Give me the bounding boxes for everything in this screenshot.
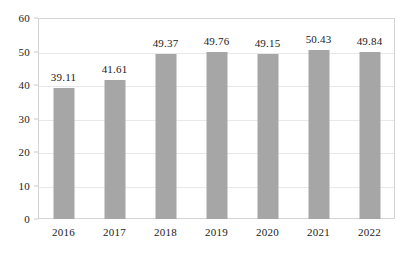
y-axis-tick-label: 10 <box>19 180 30 192</box>
bar-value-label: 39.11 <box>51 71 76 83</box>
bar[interactable] <box>104 80 125 219</box>
bar-group[interactable]: 39.11 <box>38 18 89 219</box>
y-axis-tick-label: 60 <box>19 12 30 24</box>
bar-group[interactable]: 41.61 <box>89 18 140 219</box>
bar-group[interactable]: 49.37 <box>140 18 191 219</box>
x-axis: 2016201720182019202020212022 <box>38 222 395 252</box>
bar-group[interactable]: 49.76 <box>191 18 242 219</box>
bar[interactable] <box>308 50 329 219</box>
x-axis-tick-label: 2021 <box>307 226 330 238</box>
bar[interactable] <box>206 52 227 219</box>
bar[interactable] <box>359 52 380 219</box>
bar-group[interactable]: 49.84 <box>344 18 395 219</box>
y-axis: 6050403020100 <box>0 0 38 261</box>
bar[interactable] <box>53 88 74 219</box>
bar-value-label: 49.84 <box>357 35 383 47</box>
bar-value-label: 49.37 <box>153 37 179 49</box>
x-axis-tick-label: 2017 <box>103 226 126 238</box>
bar-chart: 6050403020100 39.1141.6149.3749.7649.155… <box>0 0 411 261</box>
y-axis-tick-label: 40 <box>19 79 30 91</box>
bar-group[interactable]: 50.43 <box>293 18 344 219</box>
y-axis-tick-label: 50 <box>19 46 30 58</box>
x-axis-tick-label: 2022 <box>358 226 381 238</box>
bar-value-label: 50.43 <box>306 33 332 45</box>
x-axis-tick-label: 2018 <box>154 226 177 238</box>
bar[interactable] <box>257 54 278 219</box>
x-axis-tick-label: 2019 <box>205 226 228 238</box>
bar-value-label: 49.15 <box>255 37 281 49</box>
x-axis-tick-label: 2016 <box>52 226 75 238</box>
x-axis-tick-label: 2020 <box>256 226 279 238</box>
bar-value-label: 41.61 <box>102 63 128 75</box>
bar-value-label: 49.76 <box>204 35 230 47</box>
y-axis-tick-label: 30 <box>19 113 30 125</box>
bar-group[interactable]: 49.15 <box>242 18 293 219</box>
y-axis-tick-label: 20 <box>19 146 30 158</box>
bars-layer: 39.1141.6149.3749.7649.1550.4349.84 <box>38 18 395 219</box>
y-axis-tick-label: 0 <box>24 213 30 225</box>
bar[interactable] <box>155 54 176 219</box>
